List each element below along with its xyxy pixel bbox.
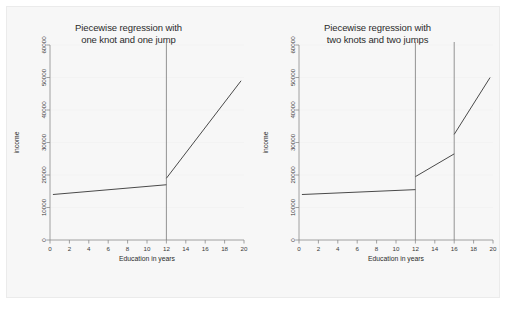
x-tick-label: 12 xyxy=(412,245,419,252)
y-tick-label: 10000 xyxy=(289,198,296,216)
y-tick-label: 30000 xyxy=(40,133,47,151)
regression-segment-post-knot-2 xyxy=(454,78,490,135)
y-tick-label: 50000 xyxy=(40,68,47,86)
x-tick-label: 18 xyxy=(221,245,228,252)
x-tick-label: 10 xyxy=(393,245,400,252)
x-axis-title: Education in years xyxy=(368,255,425,263)
y-tick-label: 20000 xyxy=(289,166,296,184)
y-tick-label: 0 xyxy=(40,238,47,242)
y-tick-label: 60000 xyxy=(289,36,296,54)
regression-segment-between-knots xyxy=(415,154,454,177)
x-tick-label: 18 xyxy=(470,245,477,252)
y-axis-title: income xyxy=(13,131,20,153)
figure-page: Piecewise regression withone knot and on… xyxy=(0,0,506,316)
x-tick-label: 2 xyxy=(317,245,321,252)
x-axis-title: Education in years xyxy=(119,255,176,263)
x-tick-label: 12 xyxy=(163,245,170,252)
chart-panel-right: Piecewise regression withtwo knots and t… xyxy=(255,12,500,290)
regression-segment-pre-knot-1 xyxy=(302,190,415,195)
x-tick-label: 20 xyxy=(490,245,497,252)
chart-panel-left: Piecewise regression withone knot and on… xyxy=(6,12,251,290)
x-tick-label: 6 xyxy=(355,245,359,252)
chart-plot-right: 0100002000030000400005000060000income024… xyxy=(255,12,500,290)
y-axis-title: income xyxy=(262,131,269,153)
x-tick-label: 0 xyxy=(297,245,301,252)
y-tick-label: 0 xyxy=(289,238,296,242)
y-tick-label: 40000 xyxy=(289,101,296,119)
x-tick-label: 2 xyxy=(68,245,72,252)
x-tick-label: 20 xyxy=(241,245,248,252)
chart-plot-left: 0100002000030000400005000060000income024… xyxy=(6,12,251,290)
x-tick-label: 16 xyxy=(202,245,209,252)
y-tick-label: 40000 xyxy=(40,101,47,119)
y-tick-label: 20000 xyxy=(40,166,47,184)
y-tick-label: 10000 xyxy=(40,198,47,216)
x-tick-label: 8 xyxy=(126,245,130,252)
y-tick-label: 60000 xyxy=(40,36,47,54)
x-tick-label: 8 xyxy=(375,245,379,252)
regression-segment-post-knot xyxy=(166,81,241,179)
x-tick-label: 4 xyxy=(336,245,340,252)
y-tick-label: 50000 xyxy=(289,68,296,86)
y-tick-label: 30000 xyxy=(289,133,296,151)
x-tick-label: 0 xyxy=(48,245,52,252)
regression-segment-pre-knot xyxy=(53,185,166,195)
x-tick-label: 16 xyxy=(451,245,458,252)
x-tick-label: 6 xyxy=(106,245,110,252)
x-tick-label: 10 xyxy=(144,245,151,252)
x-tick-label: 14 xyxy=(431,245,438,252)
x-tick-label: 14 xyxy=(182,245,189,252)
x-tick-label: 4 xyxy=(87,245,91,252)
